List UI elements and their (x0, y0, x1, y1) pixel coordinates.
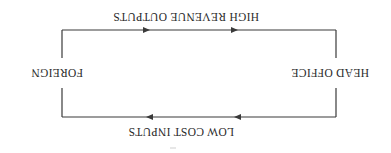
arrow-right-icon (234, 114, 241, 120)
top-flow-label: LOW COST INPUTS (128, 126, 234, 138)
arrow-left-icon (231, 27, 238, 33)
arrow-left-icon (143, 27, 150, 33)
foreign-node-label: FOREIGN (31, 67, 83, 79)
bottom-flow-label: HIGH REVENUE OUTPUTS (113, 11, 259, 23)
diagram-canvas: LOW COST INPUTS HEAD OFFICE FOREIGN HIGH… (0, 0, 391, 153)
head-office-node-label: HEAD OFFICE (291, 67, 369, 79)
arrow-right-icon (146, 114, 153, 120)
